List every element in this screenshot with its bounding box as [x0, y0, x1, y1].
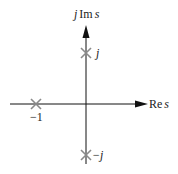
imaginary-axis-arrow-icon — [83, 25, 90, 38]
pole-minus-j: −j — [81, 148, 104, 162]
pole-minus-one: −1 — [30, 99, 43, 124]
pole-plus-j: j — [81, 46, 100, 60]
real-axis-label: Res — [149, 97, 169, 111]
real-axis — [10, 101, 148, 108]
s-plane-diagram: Res jIms −1 j −j — [0, 0, 178, 174]
real-axis-arrow-icon — [135, 101, 148, 108]
imaginary-axis — [83, 25, 90, 164]
pole-label: j — [94, 46, 100, 60]
pole-label: −1 — [30, 110, 43, 124]
pole-label: −j — [92, 148, 104, 162]
imaginary-axis-label: jIms — [72, 7, 100, 21]
